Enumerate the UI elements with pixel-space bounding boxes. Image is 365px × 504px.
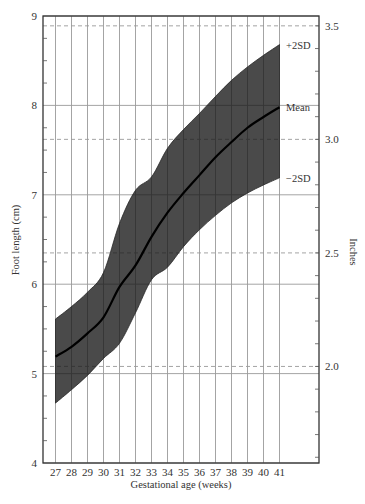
y-tick-label: 9 <box>32 10 38 22</box>
x-tick-label: 39 <box>242 466 254 478</box>
foot-length-chart: 456789 2.02.53.03.5 27282930313233343536… <box>0 0 365 504</box>
y-tick-label: 5 <box>32 368 38 380</box>
x-tick-label: 28 <box>66 466 78 478</box>
x-tick-label: 40 <box>258 466 270 478</box>
x-tick-label: 34 <box>162 466 174 478</box>
y-axis-title: Foot length (cm) <box>10 204 22 275</box>
x-tick-label: 30 <box>98 466 110 478</box>
y-axis-right-tick-labels: 2.02.53.03.5 <box>325 20 339 373</box>
x-tick-label: 36 <box>194 466 206 478</box>
lower-sd-label: −2SD <box>286 173 311 184</box>
y-axis-tick-labels: 456789 <box>32 10 38 469</box>
y-right-tick-label: 3.0 <box>325 133 339 145</box>
y-axis-right-title: Inches <box>348 238 359 265</box>
x-axis-tick-labels: 272829303132333435363738394041 <box>50 466 285 478</box>
x-tick-label: 41 <box>274 466 285 478</box>
x-tick-label: 32 <box>130 466 141 478</box>
y-right-tick-label: 2.5 <box>325 247 339 259</box>
x-axis-title: Gestational age (weeks) <box>131 479 232 491</box>
y-tick-label: 8 <box>32 99 38 111</box>
x-tick-label: 29 <box>82 466 94 478</box>
y-right-tick-label: 3.5 <box>325 20 339 32</box>
x-tick-label: 33 <box>146 466 158 478</box>
y-tick-label: 4 <box>32 457 38 469</box>
x-tick-label: 37 <box>210 466 222 478</box>
y-tick-label: 6 <box>32 278 38 290</box>
x-tick-label: 27 <box>50 466 62 478</box>
y-right-tick-label: 2.0 <box>325 360 339 372</box>
y-tick-label: 7 <box>32 189 38 201</box>
mean-label: Mean <box>286 102 311 113</box>
x-tick-label: 38 <box>226 466 238 478</box>
x-tick-label: 35 <box>178 466 190 478</box>
x-tick-label: 31 <box>114 466 125 478</box>
upper-sd-label: +2SD <box>286 40 311 51</box>
